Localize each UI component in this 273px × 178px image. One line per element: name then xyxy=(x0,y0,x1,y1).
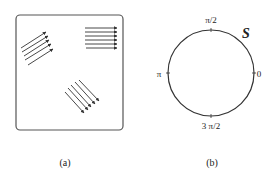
figure: (a) π/2 π 0 3 π/2 S (b) xyxy=(0,0,273,178)
angle-ticks xyxy=(166,28,256,118)
label-three-half-pi: 3 π/2 xyxy=(202,121,220,131)
panel-a: (a) xyxy=(16,15,123,169)
label-half-pi: π/2 xyxy=(205,15,217,25)
arrow-group-lower-middle xyxy=(65,80,99,113)
caption-a: (a) xyxy=(59,157,70,169)
arrow-icon xyxy=(22,36,48,52)
arrow-icon xyxy=(25,44,51,60)
unit-circle xyxy=(168,30,254,116)
label-pi: π xyxy=(157,69,162,79)
caption-b: (b) xyxy=(206,157,218,169)
panel-b: π/2 π 0 3 π/2 S (b) xyxy=(157,15,262,169)
vector-field xyxy=(21,28,117,113)
arrow-group-upper-right xyxy=(85,28,117,48)
set-label-s: S xyxy=(242,26,250,41)
arrow-group-upper-left xyxy=(21,32,53,65)
label-zero: 0 xyxy=(257,69,262,79)
